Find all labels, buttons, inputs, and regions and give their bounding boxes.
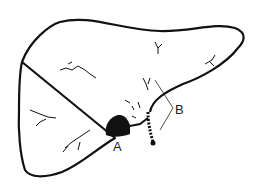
liver-diagram: [0, 0, 255, 194]
gallbladder: [106, 115, 130, 137]
duct-line: [130, 118, 148, 126]
bile-duct: [148, 112, 153, 142]
liver-outline: [19, 20, 244, 177]
label-b: B: [175, 103, 184, 116]
label-b-pointers: [155, 80, 173, 130]
label-a: A: [113, 140, 122, 153]
